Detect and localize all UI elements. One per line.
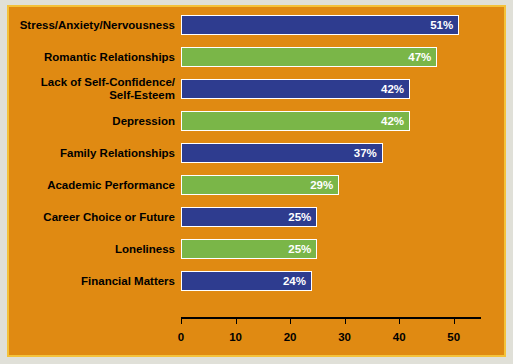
category-label-line1: Career Choice or Future xyxy=(43,211,175,223)
bar-value-label: 42% xyxy=(381,115,404,127)
bar: 25% xyxy=(181,239,317,259)
chart-row: Stress/Anxiety/Nervousness51% xyxy=(9,11,504,39)
category-label-line1: Family Relationships xyxy=(60,147,175,159)
category-label-line1: Financial Matters xyxy=(81,275,175,287)
x-axis-tick xyxy=(181,319,182,324)
category-label: Stress/Anxiety/Nervousness xyxy=(9,19,175,32)
category-label: Family Relationships xyxy=(9,147,175,160)
bar-value-label: 37% xyxy=(354,147,377,159)
category-label: Depression xyxy=(9,115,175,128)
chart-row: Career Choice or Future25% xyxy=(9,203,504,231)
x-axis-tick xyxy=(236,319,237,324)
bar-value-label: 25% xyxy=(288,243,311,255)
chart-row: Depression42% xyxy=(9,107,504,135)
category-label-line1: Stress/Anxiety/Nervousness xyxy=(20,19,175,31)
category-label: Financial Matters xyxy=(9,275,175,288)
bar: 51% xyxy=(181,15,459,35)
bar: 37% xyxy=(181,143,383,163)
chart-row: Loneliness25% xyxy=(9,235,504,263)
x-axis-tick xyxy=(399,319,400,324)
chart-row: Lack of Self-Confidence/Self-Esteem42% xyxy=(9,75,504,103)
x-axis-tick-label: 10 xyxy=(229,331,242,343)
bar-value-label: 42% xyxy=(381,83,404,95)
bar-value-label: 47% xyxy=(408,51,431,63)
category-label-line1: Romantic Relationships xyxy=(44,51,175,63)
category-label: Career Choice or Future xyxy=(9,211,175,224)
category-label-line1: Lack of Self-Confidence/ xyxy=(41,76,175,88)
bar-value-label: 25% xyxy=(288,211,311,223)
bar: 47% xyxy=(181,47,437,67)
x-axis-line xyxy=(181,317,481,319)
bar: 42% xyxy=(181,79,410,99)
x-axis-tick xyxy=(290,319,291,324)
bar: 24% xyxy=(181,271,312,291)
bar-chart: Stress/Anxiety/Nervousness51%Romantic Re… xyxy=(7,5,506,357)
category-label-line2: Self-Esteem xyxy=(9,89,175,102)
category-label: Academic Performance xyxy=(9,179,175,192)
x-axis-tick-label: 30 xyxy=(338,331,351,343)
bar: 25% xyxy=(181,207,317,227)
category-label: Loneliness xyxy=(9,243,175,256)
x-axis-tick-label: 0 xyxy=(178,331,184,343)
category-label: Lack of Self-Confidence/Self-Esteem xyxy=(9,76,175,102)
x-axis-tick xyxy=(345,319,346,324)
bar-value-label: 29% xyxy=(310,179,333,191)
category-label-line1: Depression xyxy=(112,115,175,127)
plot-area: Stress/Anxiety/Nervousness51%Romantic Re… xyxy=(9,7,504,355)
x-axis-tick-label: 50 xyxy=(447,331,460,343)
category-label-line1: Academic Performance xyxy=(47,179,175,191)
category-label: Romantic Relationships xyxy=(9,51,175,64)
category-label-line1: Loneliness xyxy=(115,243,175,255)
chart-row: Financial Matters24% xyxy=(9,267,504,295)
chart-row: Family Relationships37% xyxy=(9,139,504,167)
x-axis-tick-label: 40 xyxy=(393,331,406,343)
x-axis-tick xyxy=(454,319,455,324)
bar-value-label: 24% xyxy=(283,275,306,287)
chart-row: Romantic Relationships47% xyxy=(9,43,504,71)
bar: 29% xyxy=(181,175,339,195)
chart-row: Academic Performance29% xyxy=(9,171,504,199)
x-axis-tick-label: 20 xyxy=(284,331,297,343)
bar-value-label: 51% xyxy=(430,19,453,31)
bar: 42% xyxy=(181,111,410,131)
